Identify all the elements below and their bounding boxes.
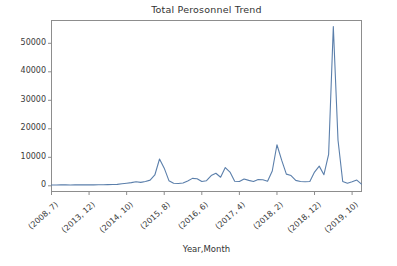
x-axis-tick-labels: (2008, 7)(2013, 12)(2014, 10)(2015, 8)(2… <box>0 0 397 266</box>
x-axis-title: Year,Month <box>51 244 362 254</box>
chart-figure: Total Perosonnel Trend 01000020000300004… <box>0 0 397 266</box>
